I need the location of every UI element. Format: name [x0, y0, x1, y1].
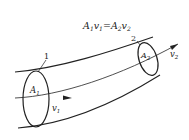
section-label-2: 2: [131, 34, 136, 43]
arrow-v1-icon: [63, 96, 72, 101]
area-label-a2: A2: [140, 51, 151, 61]
area-label-a1: A1: [29, 85, 40, 96]
velocity-label-v1: v1: [52, 103, 60, 114]
continuity-diagram: A1v1=A2v2 1 2 A1 A2 v1 v2: [0, 0, 189, 140]
leader-1: [38, 60, 46, 72]
cross-section-1: [23, 71, 49, 127]
continuity-equation: A1v1=A2v2: [82, 20, 131, 32]
section-label-1: 1: [44, 52, 49, 61]
velocity-label-v2: v2: [170, 49, 179, 60]
